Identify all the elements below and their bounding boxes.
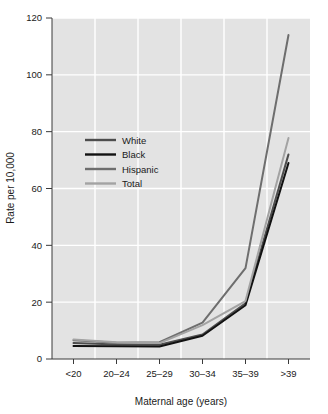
y-axis-tick-label: 20 bbox=[31, 297, 42, 308]
legend-label-white: White bbox=[122, 135, 146, 146]
y-axis-title: Rate per 10,000 bbox=[5, 152, 16, 224]
line-chart: 020406080100120 <2020–2425–2930–3435–39>… bbox=[0, 0, 328, 414]
y-axis-tick-label: 120 bbox=[26, 12, 42, 23]
x-axis-tick-label: 20–24 bbox=[103, 368, 129, 379]
x-axis-tick-label: 25–29 bbox=[146, 368, 172, 379]
legend-label-total: Total bbox=[122, 178, 142, 189]
x-axis-tick-label: 30–34 bbox=[189, 368, 215, 379]
chart-figure: 020406080100120 <2020–2425–2930–3435–39>… bbox=[0, 0, 328, 414]
y-axis-tick-label: 100 bbox=[26, 69, 42, 80]
legend-label-black: Black bbox=[122, 149, 145, 160]
x-axis-tick-label: <20 bbox=[65, 368, 81, 379]
y-axis-tick-label: 0 bbox=[37, 353, 42, 364]
x-axis-tick-label: >39 bbox=[280, 368, 296, 379]
y-axis-tick-label: 60 bbox=[31, 183, 42, 194]
y-axis-tick-label: 80 bbox=[31, 126, 42, 137]
x-axis-title: Maternal age (years) bbox=[135, 396, 227, 407]
legend-label-hispanic: Hispanic bbox=[122, 164, 159, 175]
x-axis-tick-label: 35–39 bbox=[232, 368, 258, 379]
y-axis-tick-label: 40 bbox=[31, 240, 42, 251]
